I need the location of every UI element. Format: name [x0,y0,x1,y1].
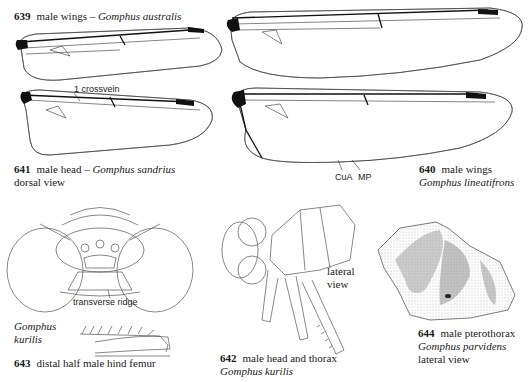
figure-642-view-line2: view [327,278,348,291]
figure-640-caption: 640male wings [419,163,492,176]
crossvein-label: 1 crossvein [74,84,120,94]
figure-644-species: Gomphus parvidens [418,340,506,353]
figure-640-species: Gomphus lineatifrons [419,176,514,189]
figure-642-species: Gomphus kurilis [220,365,293,378]
cua-vein-label: CuA [335,172,353,182]
figure-644-caption: 644male pterothorax [418,327,515,340]
figure-643-species-line1: Gomphus [14,320,56,333]
transverse-ridge-label: transverse ridge [73,297,138,307]
figure-641-subtitle: dorsal view [14,176,65,189]
figure-643-caption: 643distal half male hind femur [14,357,156,370]
figure-642-caption: 642male head and thorax [220,352,337,365]
figure-641-caption: 641male head – Gomphus sandrius [14,163,175,176]
figure-643-species-line2: kurilis [14,333,42,346]
figure-644-subtitle: lateral view [418,353,470,366]
wing-639-forewing-illustration [0,0,530,382]
figure-642-view-line1: lateral [327,265,354,278]
mp-vein-label: MP [358,172,372,182]
